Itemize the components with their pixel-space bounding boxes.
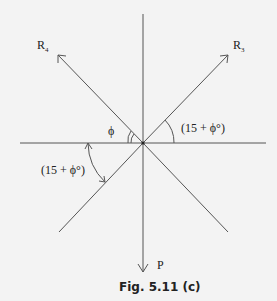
angle-label-left: (15 + ϕ°) (41, 163, 85, 178)
phi-arc-inner (131, 134, 134, 143)
figure-caption: Fig. 5.11 (c) (119, 280, 201, 294)
r4-label: R4 (37, 38, 49, 54)
angle-arc-left (88, 143, 105, 182)
p-label: P (157, 258, 164, 273)
angle-label-right: (15 + ϕ°) (181, 121, 225, 136)
r3-label: R3 (233, 38, 245, 54)
force-diagram: R4 R3 ϕ (15 + ϕ°) (15 + ϕ°) P Fig. 5.11 … (0, 0, 277, 301)
phi-label: ϕ (108, 124, 114, 139)
angle-arc-right (165, 120, 174, 143)
r4-vector (58, 55, 143, 143)
lower-left-line (59, 143, 143, 232)
lower-right-line (143, 143, 228, 232)
